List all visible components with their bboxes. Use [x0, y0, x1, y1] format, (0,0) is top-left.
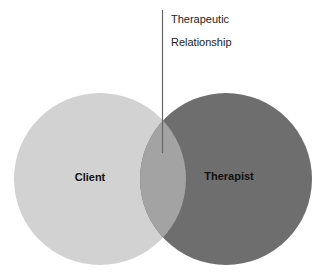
callout-label-line1: Therapeutic	[171, 13, 229, 25]
therapist-label: Therapist	[204, 170, 254, 182]
venn-diagram	[0, 0, 322, 274]
callout-label-line2: Relationship	[171, 36, 232, 48]
client-label: Client	[75, 171, 106, 183]
